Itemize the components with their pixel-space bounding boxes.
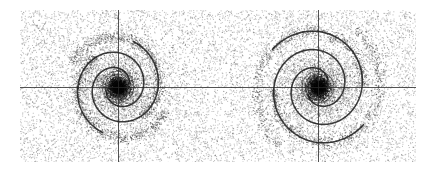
figure [0, 0, 433, 176]
spiral-galaxy-scatter-plots [0, 0, 433, 176]
